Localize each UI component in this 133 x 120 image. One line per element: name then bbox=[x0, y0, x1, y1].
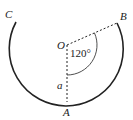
label-c: C bbox=[5, 8, 13, 20]
circular-arc bbox=[9, 22, 123, 106]
label-segment-a: a bbox=[57, 79, 63, 91]
radius-ob bbox=[67, 23, 117, 45]
angle-label: 120° bbox=[70, 47, 91, 59]
diagram-canvas: C B O A a 120° bbox=[0, 0, 133, 120]
label-o: O bbox=[57, 39, 65, 51]
label-a: A bbox=[62, 106, 70, 118]
label-b: B bbox=[120, 10, 127, 22]
